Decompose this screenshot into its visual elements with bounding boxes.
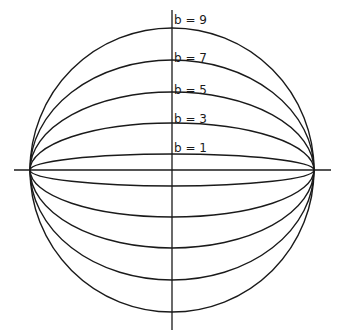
label-b-3: b = 3 [174,112,207,126]
curve-labels: b = 9 b = 7 b = 5 b = 3 b = 1 [174,13,207,155]
label-b-5: b = 5 [174,83,207,97]
label-b-1: b = 1 [174,141,207,155]
ellipse-family-diagram: b = 9 b = 7 b = 5 b = 3 b = 1 [0,0,343,336]
label-b-7: b = 7 [174,51,207,65]
label-b-9: b = 9 [174,13,207,27]
